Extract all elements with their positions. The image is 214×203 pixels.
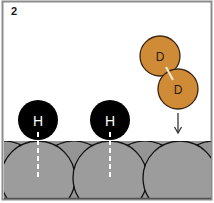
svg-text:H: H [33, 113, 43, 129]
svg-text:D: D [156, 50, 165, 64]
adsorption-diagram: H H D D [0, 0, 214, 203]
diagram-panel: H H D D 2 [0, 0, 214, 203]
panel-number: 2 [11, 5, 17, 17]
svg-text:H: H [105, 113, 115, 129]
metal-surface [0, 141, 214, 203]
svg-text:D: D [174, 83, 183, 97]
